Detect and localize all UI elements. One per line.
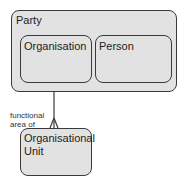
relationship-label-line2: area of bbox=[10, 120, 35, 129]
relationship-line bbox=[0, 0, 186, 188]
relationship-label-line1: functional bbox=[10, 111, 44, 120]
